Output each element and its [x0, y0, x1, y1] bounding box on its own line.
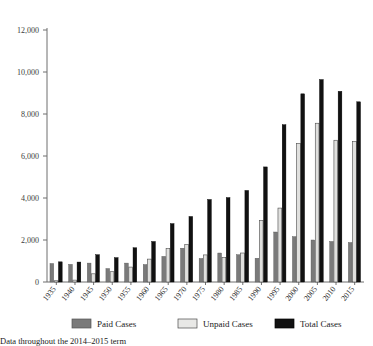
bar — [181, 248, 185, 282]
bar — [226, 198, 230, 282]
bar — [203, 255, 207, 282]
bar — [353, 142, 357, 282]
bar — [166, 249, 170, 282]
bar — [125, 263, 129, 282]
bar — [208, 199, 212, 282]
x-axis-tick-label: 1940 — [60, 285, 77, 303]
x-axis-tick-label: 2015 — [339, 285, 356, 303]
legend-label: Total Cases — [300, 319, 342, 329]
bar — [320, 80, 324, 282]
legend-item: Paid Cases — [72, 319, 137, 329]
bar-group — [348, 102, 360, 282]
bar — [199, 258, 203, 282]
bar-group — [125, 248, 137, 282]
bar — [259, 220, 263, 282]
y-axis-tick-label: 12,000 — [17, 26, 39, 35]
figure-caption: Data throughout the 2014–2015 term — [0, 336, 373, 346]
bar — [58, 262, 62, 282]
bar-group — [181, 216, 193, 282]
bar — [348, 243, 352, 282]
x-axis-tick-label: 1950 — [97, 285, 114, 303]
bar — [245, 190, 249, 282]
bar — [330, 241, 334, 282]
bar — [255, 258, 259, 282]
bar — [92, 274, 96, 282]
bar — [110, 272, 114, 282]
bar — [334, 140, 338, 282]
bar — [87, 263, 91, 282]
bar-group — [69, 262, 81, 282]
bar-group — [311, 80, 323, 282]
legend-item: Unpaid Cases — [178, 319, 253, 329]
bar-group — [87, 255, 99, 282]
x-axis-tick-label: 2010 — [321, 285, 338, 303]
bar — [236, 255, 240, 282]
bar — [357, 102, 361, 282]
x-axis-tick-label: 1985 — [227, 285, 244, 303]
x-axis-tick-label: 1995 — [265, 285, 282, 303]
x-axis-tick-label: 1945 — [78, 285, 95, 303]
legend-item: Total Cases — [275, 319, 342, 329]
bar — [278, 208, 282, 282]
legend-swatch — [275, 319, 294, 328]
bar — [133, 248, 137, 282]
bar — [282, 125, 286, 282]
bar — [218, 253, 222, 282]
bar — [292, 237, 296, 282]
bar-group — [330, 91, 342, 282]
bar-group — [143, 241, 155, 282]
bar — [106, 269, 110, 282]
bar-group — [274, 125, 286, 282]
x-axis-tick-label: 2005 — [302, 285, 319, 303]
x-axis-tick-label: 1960 — [134, 285, 151, 303]
bar — [301, 94, 305, 282]
bar — [162, 256, 166, 282]
bar — [297, 143, 301, 282]
bar — [170, 224, 174, 282]
bar-group — [199, 199, 211, 282]
bar — [143, 265, 147, 282]
bar — [185, 245, 189, 282]
bar-group — [218, 198, 230, 282]
bar — [54, 281, 58, 282]
bar — [264, 167, 268, 282]
x-axis-tick-label: 1935 — [41, 285, 58, 303]
y-axis-tick-label: 10,000 — [17, 68, 39, 77]
bar-group — [255, 167, 267, 282]
bar — [114, 258, 118, 282]
bars-layer — [50, 80, 361, 282]
bar — [73, 280, 77, 282]
x-axis-tick-label: 1980 — [209, 285, 226, 303]
bar — [338, 91, 342, 282]
x-axis-tick-label: 1955 — [116, 285, 133, 303]
bar-group — [50, 262, 62, 282]
bar-group — [292, 94, 304, 282]
legend-label: Paid Cases — [97, 319, 137, 329]
bar — [50, 264, 54, 282]
bar — [274, 232, 278, 282]
legend-swatch — [178, 319, 197, 328]
chart-legend: Paid CasesUnpaid CasesTotal Cases — [72, 319, 342, 329]
bar — [152, 241, 156, 282]
legend-swatch — [72, 319, 91, 328]
x-axis-tick-label: 2000 — [283, 285, 300, 303]
bar — [129, 267, 133, 282]
bar — [241, 253, 245, 282]
bar — [222, 258, 226, 282]
bar — [147, 259, 151, 282]
bar — [189, 216, 193, 282]
bar — [77, 262, 81, 282]
x-axis-tick-label: 1975 — [190, 285, 207, 303]
legend-label: Unpaid Cases — [203, 319, 253, 329]
x-axis-tick-label: 1990 — [246, 285, 263, 303]
x-axis-tick-label: 1970 — [171, 285, 188, 303]
bar — [96, 255, 100, 282]
x-axis: 1935194019451950195519601965197019751980… — [41, 282, 364, 303]
y-axis: 02,0004,0006,0008,00010,00012,000 — [17, 26, 47, 287]
bar — [69, 264, 73, 282]
y-axis-tick-label: 6,000 — [21, 152, 39, 161]
y-axis-tick-label: 2,000 — [21, 236, 39, 245]
y-axis-tick-label: 0 — [35, 278, 39, 287]
